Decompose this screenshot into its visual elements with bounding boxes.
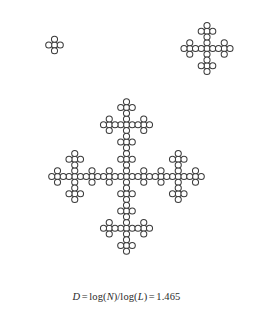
fractal-node-circle — [118, 191, 124, 197]
fractal-node-circle — [106, 127, 112, 133]
fractal-node-circle — [169, 156, 175, 162]
fractal-node-circle — [141, 116, 147, 122]
fractal-node-circle — [123, 191, 129, 197]
fractal-node-circle — [215, 45, 221, 51]
fractal-node-circle — [129, 242, 135, 248]
fractal-node-circle — [100, 173, 106, 179]
fractal-node-circle — [175, 156, 181, 162]
fractal-node-circle — [158, 173, 164, 179]
fractal-node-circle — [46, 42, 52, 48]
fractal-node-circle — [60, 173, 66, 179]
fractal-node-circle — [112, 173, 118, 179]
fractal-node-circle — [123, 225, 129, 231]
fractal-node-circle — [181, 173, 187, 179]
fractal-node-circle — [54, 179, 60, 185]
fractal-node-circle — [158, 179, 164, 185]
fractal-node-circle — [112, 122, 118, 128]
fractal-node-circle — [204, 57, 210, 63]
fractal-node-circle — [66, 156, 72, 162]
fractal-node-circle — [169, 191, 175, 197]
fractal-node-circle — [123, 150, 129, 156]
fractal-canvas — [0, 0, 253, 312]
fractal-node-circle — [72, 162, 78, 168]
fractal-node-circle — [89, 173, 95, 179]
fractal-node-circle — [118, 104, 124, 110]
fractal-node-circle — [192, 173, 198, 179]
fractal-node-circle — [123, 168, 129, 174]
fractal-node-circle — [123, 185, 129, 191]
fractal-node-circle — [123, 219, 129, 225]
fractal-node-circle — [89, 179, 95, 185]
fractal-node-circle — [72, 156, 78, 162]
fractal-node-circle — [192, 168, 198, 174]
fractal-node-circle — [204, 63, 210, 69]
fractal-node-circle — [175, 173, 181, 179]
fractal-node-circle — [141, 168, 147, 174]
fractal-node-circle — [129, 139, 135, 145]
fractal-node-circle — [204, 34, 210, 40]
fractal-node-circle — [141, 231, 147, 237]
fractal-node-circle — [129, 225, 135, 231]
fractal-node-circle — [118, 208, 124, 214]
fractal-node-circle — [146, 225, 152, 231]
fractal-node-circle — [54, 173, 60, 179]
fractal-node-circle — [204, 51, 210, 57]
fractal-node-circle — [72, 168, 78, 174]
fractal-node-circle — [123, 214, 129, 220]
fractal-node-circle — [66, 173, 72, 179]
fractal-node-circle — [129, 156, 135, 162]
fractal-node-circle — [123, 231, 129, 237]
fractal-node-circle — [129, 208, 135, 214]
fractal-node-circle — [72, 150, 78, 156]
fractal-node-circle — [123, 242, 129, 248]
fractal-node-circle — [118, 242, 124, 248]
fractal-node-circle — [123, 99, 129, 105]
fractal-node-circle — [123, 133, 129, 139]
fractal-node-circle — [198, 173, 204, 179]
fractal-node-circle — [129, 191, 135, 197]
fractal-node-circle — [123, 248, 129, 254]
fractal-node-circle — [77, 173, 83, 179]
fractal-node-circle — [175, 196, 181, 202]
fractal-node-circle — [210, 28, 216, 34]
fractal-node-circle — [181, 156, 187, 162]
fractal-node-circle — [49, 173, 55, 179]
fractal-node-circle — [192, 45, 198, 51]
fractal-node-circle — [146, 122, 152, 128]
fractal-node-circle — [129, 122, 135, 128]
fractal-node-circle — [100, 122, 106, 128]
fractal-node-circle — [51, 36, 57, 42]
fractal-node-circle — [106, 116, 112, 122]
fractal-node-circle — [141, 173, 147, 179]
fractal-node-circle — [118, 173, 124, 179]
fractal-node-circle — [123, 104, 129, 110]
fractal-node-circle — [204, 68, 210, 74]
fractal-node-circle — [227, 45, 233, 51]
fractal-node-circle — [112, 225, 118, 231]
fractal-node-circle — [123, 196, 129, 202]
fractal-node-circle — [123, 179, 129, 185]
fractal-node-circle — [221, 51, 227, 57]
fractal-node-circle — [123, 173, 129, 179]
fractal-node-circle — [123, 139, 129, 145]
fractal-node-circle — [141, 179, 147, 185]
fractal-node-circle — [146, 173, 152, 179]
fractal-node-circle — [187, 51, 193, 57]
fractal-node-circle — [175, 150, 181, 156]
fractal-node-circle — [123, 145, 129, 151]
fractal-node-circle — [118, 122, 124, 128]
fractal-node-circle — [221, 45, 227, 51]
fractal-node-circle — [72, 179, 78, 185]
fractal-node-circle — [72, 185, 78, 191]
fractal-node-circle — [123, 127, 129, 133]
fractal-node-circle — [123, 110, 129, 116]
fractal-node-circle — [83, 173, 89, 179]
fractal-node-circle — [123, 208, 129, 214]
fractal-node-circle — [198, 45, 204, 51]
fractal-node-circle — [72, 173, 78, 179]
fractal-node-circle — [175, 191, 181, 197]
fractal-node-circle — [152, 173, 158, 179]
fractal-node-circle — [141, 225, 147, 231]
fractal-node-circle — [106, 168, 112, 174]
fractal-node-circle — [51, 48, 57, 54]
